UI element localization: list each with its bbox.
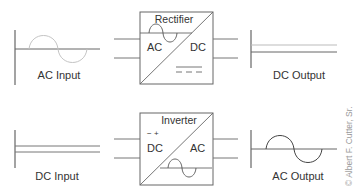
inverter-dc-label: DC bbox=[147, 142, 163, 154]
rectifier-dc-label: DC bbox=[190, 41, 206, 53]
inverter-leads-in bbox=[114, 139, 140, 158]
dc-output-label: DC Output bbox=[273, 69, 325, 81]
inverter-leads-out bbox=[213, 139, 238, 158]
dc-input-label: DC Input bbox=[35, 170, 78, 182]
rectifier-leads-in bbox=[114, 39, 140, 58]
ac-input-label: AC Input bbox=[38, 69, 81, 81]
copyright-credit: © Albert F. Cutter, Sr. bbox=[344, 107, 354, 187]
rectifier-ac-label: AC bbox=[147, 41, 162, 53]
dc-polarity-icon: − + bbox=[147, 129, 159, 138]
inverter-ac-label: AC bbox=[190, 142, 205, 154]
ac-output-waveform bbox=[251, 130, 337, 168]
dc-output-waveform bbox=[251, 30, 337, 68]
power-conversion-diagram: AC Input Rectifier AC DC DC Output DC In… bbox=[0, 0, 359, 194]
ac-output-label: AC Output bbox=[272, 170, 323, 182]
dc-input-waveform bbox=[15, 130, 100, 168]
rectifier-leads-out bbox=[213, 39, 238, 58]
inverter-title: Inverter bbox=[161, 114, 197, 126]
rectifier-title: Rectifier bbox=[155, 13, 194, 25]
